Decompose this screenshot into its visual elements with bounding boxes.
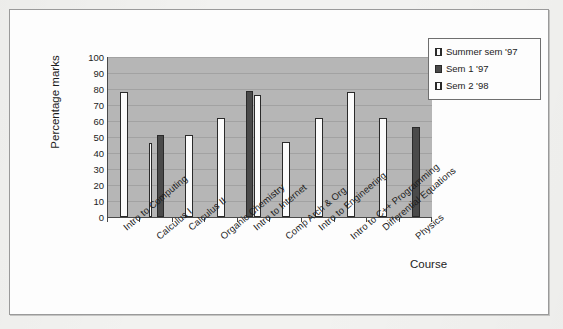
bar xyxy=(246,91,253,217)
x-tick-mark xyxy=(269,218,270,222)
legend-label: Summer sem '97 xyxy=(446,46,518,57)
x-tick-mark xyxy=(172,218,173,222)
bar xyxy=(120,92,128,217)
x-tick-mark xyxy=(431,218,432,222)
y-tick-label: 70 xyxy=(70,101,104,110)
legend-item: Sem 1 '97 xyxy=(435,61,534,76)
chart-legend: Summer sem '97Sem 1 '97Sem 2 '98 xyxy=(428,38,541,100)
bar xyxy=(185,135,193,217)
chart-frame: Percentage marks 1009080706050403020100 … xyxy=(9,9,549,315)
bar xyxy=(412,127,420,217)
bar xyxy=(217,118,225,217)
legend-swatch-icon xyxy=(435,48,442,56)
y-tick-label: 0 xyxy=(70,213,104,222)
legend-item: Summer sem '97 xyxy=(435,44,534,59)
x-axis-ticks xyxy=(107,218,433,223)
gridline xyxy=(108,89,432,90)
gridline xyxy=(108,57,432,58)
x-tick-mark xyxy=(301,218,302,222)
x-tick-mark xyxy=(107,218,108,222)
legend-item: Sem 2 '98 xyxy=(435,78,534,93)
gridline xyxy=(108,73,432,74)
y-tick-label: 60 xyxy=(70,117,104,126)
y-tick-label: 30 xyxy=(70,165,104,174)
y-tick-label: 20 xyxy=(70,181,104,190)
x-tick-mark xyxy=(399,218,400,222)
bar xyxy=(315,118,323,217)
legend-label: Sem 2 '98 xyxy=(446,80,488,91)
x-axis-title: Course xyxy=(410,258,447,270)
x-tick-mark xyxy=(204,218,205,222)
bar xyxy=(347,92,355,217)
y-axis-title: Percentage marks xyxy=(49,37,61,167)
legend-label: Sem 1 '97 xyxy=(446,63,488,74)
bar xyxy=(157,135,164,217)
x-tick-mark xyxy=(237,218,238,222)
scanned-page: Percentage marks 1009080706050403020100 … xyxy=(0,0,563,329)
y-tick-label: 80 xyxy=(70,85,104,94)
y-tick-label: 100 xyxy=(70,53,104,62)
bar xyxy=(282,142,290,217)
gridline xyxy=(108,105,432,106)
plot-area xyxy=(107,57,432,218)
bar xyxy=(149,143,152,217)
y-axis-ticks: 1009080706050403020100 xyxy=(66,52,104,223)
bar xyxy=(379,118,387,217)
y-tick-label: 10 xyxy=(70,197,104,206)
x-tick-mark xyxy=(334,218,335,222)
y-tick-label: 50 xyxy=(70,133,104,142)
x-tick-mark xyxy=(366,218,367,222)
bar xyxy=(254,95,261,217)
x-tick-mark xyxy=(139,218,140,222)
y-tick-label: 40 xyxy=(70,149,104,158)
legend-swatch-icon xyxy=(435,65,442,73)
legend-swatch-icon xyxy=(435,82,442,90)
y-tick-label: 90 xyxy=(70,69,104,78)
